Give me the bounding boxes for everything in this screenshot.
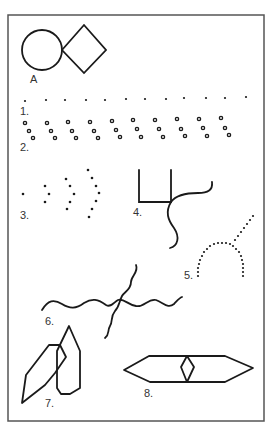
label-a: A (30, 74, 37, 85)
figure-5-dotted-arch (197, 215, 254, 277)
figure-7-overlapping-hexagons (22, 326, 80, 403)
label-5: 5. (184, 270, 193, 281)
figure-a-circle-diamond (22, 25, 106, 73)
figure-4-square-wave (139, 170, 212, 248)
label-4: 4. (133, 207, 142, 218)
diagonal-wave (105, 265, 137, 338)
center-diamond (181, 356, 194, 382)
tilted-hexagon (22, 345, 66, 403)
horizontal-wave (42, 297, 182, 310)
figure-3-dot-chevrons (22, 169, 101, 219)
figure-8-hexagon-diamond (124, 356, 253, 382)
upright-hexagon (57, 326, 80, 394)
wavy-line (168, 182, 212, 248)
figure-1-dot-row (24, 96, 247, 102)
label-6: 6. (45, 316, 54, 327)
label-7: 7. (45, 398, 54, 409)
label-1: 1. (20, 106, 29, 117)
circle-shape (22, 30, 62, 70)
figure-6-crossing-waves (42, 265, 182, 338)
frame-border (8, 15, 264, 421)
open-square (139, 170, 171, 202)
label-8: 8. (144, 388, 153, 399)
label-2: 2. (20, 142, 29, 153)
figure-2-circle-triplets (23, 116, 230, 139)
label-3: 3. (20, 210, 29, 221)
gestalt-figure-sheet: A 1. 2. 3. 4. 5. 6. 7. 8. (0, 0, 271, 428)
diamond-shape (62, 25, 106, 73)
